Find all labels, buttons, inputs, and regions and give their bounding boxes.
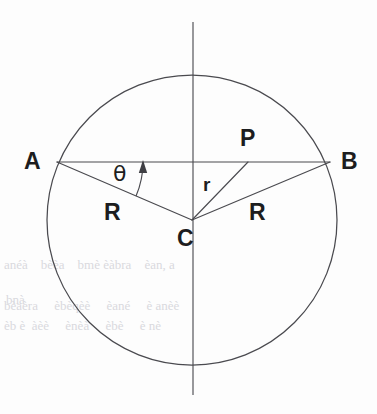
point-label-c: C [177, 227, 194, 250]
radius-label-right: R [249, 201, 266, 224]
point-label-p: P [240, 127, 255, 150]
diagram-vector-layer [0, 0, 377, 414]
point-label-a: A [24, 150, 41, 173]
radius-label-left: R [104, 201, 121, 224]
angle-label-theta: θ [113, 163, 126, 185]
point-label-b: B [341, 150, 358, 173]
geometry-diagram-canvas: bnà anéà bèèa bmè èàbra èan, a bèaèra èb… [0, 0, 377, 414]
segment-cp-line [192, 162, 248, 220]
segment-label-r: r [203, 175, 210, 194]
